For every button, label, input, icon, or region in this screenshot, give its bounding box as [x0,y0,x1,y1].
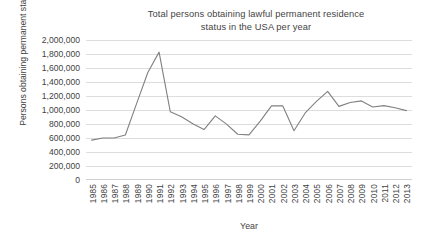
x-axis-tick-label: 2000 [256,184,266,203]
x-axis-tick-label: 1999 [245,184,255,203]
x-axis-tick-label: 2001 [267,184,277,203]
x-axis-tick-label: 1989 [133,184,143,203]
y-axis-tick-label: 1,400,000 [4,77,80,87]
y-axis-tick-label: 0 [4,175,80,185]
x-axis-tick-label: 1995 [200,184,210,203]
x-axis-title: Year [86,221,412,231]
x-axis-tick-label: 1990 [144,184,154,203]
x-axis-tick-label: 2003 [290,184,300,203]
x-axis-tick-label: 1987 [110,184,120,203]
x-axis-tick-label: 2004 [301,184,311,203]
x-axis-tick-label: 1986 [99,184,109,203]
x-axis-tick-label: 2008 [346,184,356,203]
x-axis-tick-label: 1985 [88,184,98,203]
x-axis-tick-label: 2006 [324,184,334,203]
y-axis-tick-label: 1,200,000 [4,91,80,101]
y-axis-tick-label: 400,000 [4,147,80,157]
x-axis-tick-label: 1991 [155,184,165,203]
x-axis-tick-label: 2011 [380,184,390,203]
x-axis-tick-label: 2005 [312,184,322,203]
line-chart-figure: Total persons obtaining lawful permanent… [0,0,424,239]
x-axis-tick-label: 2002 [279,184,289,203]
x-axis-tick-label: 2012 [391,184,401,203]
chart-title-line-2: status in the USA per year [201,22,311,32]
x-axis-tick-label: 1996 [211,184,221,203]
y-axis-tick-label: 1,600,000 [4,63,80,73]
chart-title: Total persons obtaining lawful permanent… [96,8,416,33]
x-axis-tick-label: 2007 [335,184,345,203]
chart-title-line-1: Total persons obtaining lawful permanent… [148,9,365,19]
y-axis-tick-label: 1,800,000 [4,49,80,59]
series-line-total-persons [86,40,412,180]
x-axis-tick-label: 1994 [189,184,199,203]
x-axis-tick-label: 1992 [166,184,176,203]
x-axis-tick-label: 2009 [357,184,367,203]
x-axis-tick-label: 2010 [369,184,379,203]
y-axis-tick-label: 800,000 [4,119,80,129]
x-axis-tick-label: 1997 [223,184,233,203]
y-axis-tick-label: 1,000,000 [4,105,80,115]
plot-area [86,40,412,180]
x-axis-tick-label: 2013 [402,184,412,203]
x-axis-tick-label: 1993 [178,184,188,203]
y-axis-tick-label: 200,000 [4,161,80,171]
y-axis-tick-label: 600,000 [4,133,80,143]
x-axis-tick-label: 1988 [121,184,131,203]
y-axis-tick-label: 2,000,000 [4,35,80,45]
x-axis-tick-label: 1998 [234,184,244,203]
